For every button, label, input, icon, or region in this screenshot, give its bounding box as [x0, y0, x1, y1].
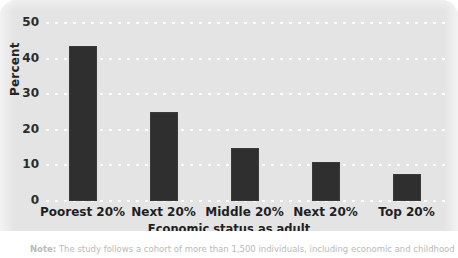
x-tick-label-1: Next 20%	[131, 206, 196, 218]
y-tick-label-40: 40	[22, 52, 39, 64]
gridline-40: 40	[46, 58, 451, 60]
y-tick-label-0: 0	[31, 194, 39, 206]
y-tick-label-20: 20	[22, 123, 39, 135]
chart-panel: Percent 01020304050 Poorest 20%Next 20%M…	[0, 0, 458, 231]
chart-figure: Percent 01020304050 Poorest 20%Next 20%M…	[0, 0, 458, 258]
x-tick-label-4: Top 20%	[378, 206, 434, 218]
x-tick-label-2: Middle 20%	[205, 206, 283, 218]
footnote-text: The study follows a cohort of more than …	[59, 244, 455, 254]
gridline-50: 50	[46, 22, 451, 24]
footnote-clip: Note: The study follows a cohort of more…	[0, 243, 458, 258]
x-axis-title: Economic status as adult	[0, 224, 458, 231]
plot-area: 01020304050	[46, 23, 451, 201]
gridline-20: 20	[46, 129, 451, 131]
y-tick-label-30: 30	[22, 87, 39, 99]
bar-1[interactable]	[150, 112, 178, 201]
bar-4[interactable]	[393, 174, 421, 201]
y-axis-title: Percent	[8, 42, 22, 96]
x-tick-label-0: Poorest 20%	[40, 206, 125, 218]
x-tick-label-3: Next 20%	[293, 206, 358, 218]
bar-3[interactable]	[312, 162, 340, 201]
footnote-prefix: Note:	[30, 244, 56, 254]
gridline-30: 30	[46, 93, 451, 95]
y-tick-label-50: 50	[22, 16, 39, 28]
y-tick-label-10: 10	[22, 158, 39, 170]
bar-0[interactable]	[69, 46, 97, 201]
bar-2[interactable]	[231, 148, 259, 201]
footnote: Note: The study follows a cohort of more…	[30, 243, 450, 256]
